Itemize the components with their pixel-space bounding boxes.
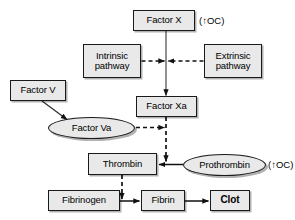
node-extrinsic-pathway[interactable]: Extrinsic pathway <box>204 44 262 78</box>
node-clot-label: Clot <box>220 195 239 206</box>
node-fibrin[interactable]: Fibrin <box>141 190 185 211</box>
node-fibrinogen-label: Fibrinogen <box>62 195 106 206</box>
node-prothrombin[interactable]: Prothrombin <box>183 154 266 176</box>
node-clot[interactable]: Clot <box>210 190 250 211</box>
node-thrombin[interactable]: Thrombin <box>88 153 157 175</box>
annotation-prothrombin-oc: (↑OC) <box>268 159 293 170</box>
node-factor-v[interactable]: Factor V <box>10 80 66 101</box>
edge-factor-v-to-factor-va <box>42 101 67 120</box>
node-fibrin-label: Fibrin <box>151 195 174 206</box>
node-factor-va[interactable]: Factor Va <box>48 117 135 139</box>
node-factor-xa[interactable]: Factor Xa <box>136 96 197 117</box>
node-factor-x-label: Factor X <box>146 15 181 26</box>
node-factor-va-label: Factor Va <box>72 123 112 134</box>
node-extrinsic-pathway-label: Extrinsic pathway <box>216 51 251 72</box>
coagulation-cascade-diagram: Factor X Intrinsic pathway Extrinsic pat… <box>0 0 295 220</box>
node-prothrombin-label: Prothrombin <box>199 160 250 171</box>
node-factor-v-label: Factor V <box>20 85 55 96</box>
node-fibrinogen[interactable]: Fibrinogen <box>48 190 120 211</box>
annotation-factor-x-oc: (↑OC) <box>199 15 224 26</box>
node-intrinsic-pathway[interactable]: Intrinsic pathway <box>83 44 141 78</box>
node-thrombin-label: Thrombin <box>103 159 142 170</box>
node-intrinsic-pathway-label: Intrinsic pathway <box>95 51 130 72</box>
node-factor-x[interactable]: Factor X <box>133 10 195 31</box>
node-factor-xa-label: Factor Xa <box>146 101 186 112</box>
